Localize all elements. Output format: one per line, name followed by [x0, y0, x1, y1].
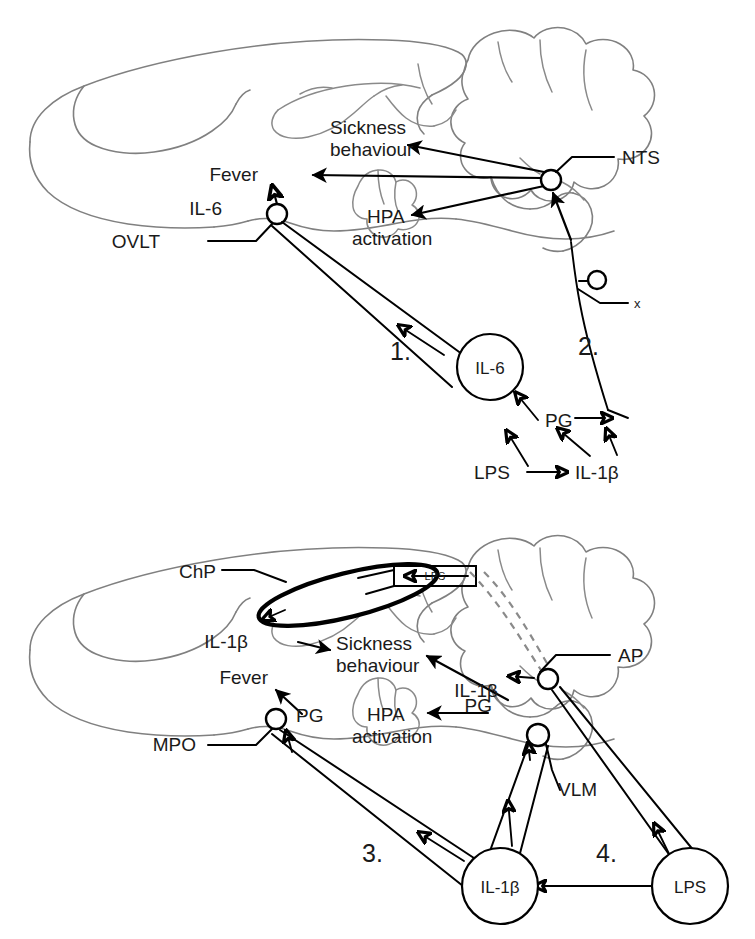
label-fever-top: Fever	[209, 164, 258, 185]
csf-dashed-2	[484, 572, 551, 670]
label-hpa-bottom: HPA	[367, 704, 405, 725]
arrow-nts-to-fever	[313, 175, 542, 178]
node-ovlt	[267, 204, 287, 224]
leader-chp	[222, 570, 286, 582]
csf-dashed-1	[470, 572, 541, 670]
label-vlm: VLM	[558, 779, 597, 800]
label-behaviour-bottom: behaviour	[336, 655, 420, 676]
label-hpa-top: HPA	[367, 206, 405, 227]
leader-vagus-x	[578, 289, 628, 303]
label-pg-mpo: PG	[296, 705, 323, 726]
label-il6-ovlt: IL-6	[189, 198, 222, 219]
leader-nts	[556, 157, 614, 172]
arrow-nts-to-sickness	[408, 145, 544, 172]
label-pathway-4: 4.	[596, 839, 617, 867]
arrow-pg-into-vlm	[528, 742, 530, 760]
label-sickness-bottom: Sickness	[336, 633, 412, 654]
label-ap: AP	[618, 645, 643, 666]
label-lps-box: LPS	[425, 570, 446, 582]
label-chp: ChP	[179, 561, 216, 582]
node-vagal-ganglion	[588, 271, 606, 289]
arrow-ap-il1b	[508, 676, 534, 678]
arrow-il1b-to-pg	[557, 428, 590, 456]
label-il1b-chp: IL-1β	[204, 631, 248, 652]
label-ovlt: OVLT	[112, 231, 161, 252]
tube-4-left	[552, 690, 673, 860]
arrow-pg-to-il6	[515, 392, 538, 420]
diagram-svg: Sickness behaviour Fever IL-6 OVLT HPA a…	[0, 0, 755, 939]
arrow-lps-to-pg	[506, 430, 528, 466]
label-il1b-top: IL-1β	[575, 462, 619, 483]
label-pathway-1: 1.	[390, 337, 411, 365]
labels-top: Sickness behaviour Fever IL-6 OVLT HPA a…	[112, 117, 660, 483]
node-vlm	[527, 724, 549, 746]
label-fever-bottom: Fever	[219, 667, 268, 688]
label-circle-il1b: IL-1β	[480, 878, 519, 897]
label-pathway-2: 2.	[578, 332, 599, 360]
label-behaviour-top: behaviour	[330, 139, 414, 160]
label-pg-top: PG	[545, 410, 572, 431]
label-circle-il6: IL-6	[475, 359, 504, 378]
vagus-nerve-curve	[571, 242, 608, 410]
label-hpa-activation-top: activation	[352, 228, 432, 249]
arrow-vagus-to-nts	[553, 193, 571, 240]
label-lps-top: LPS	[474, 462, 510, 483]
node-mpo	[266, 709, 286, 729]
label-vagus-x: x	[634, 296, 641, 311]
arrow-il1b-to-vagus	[606, 428, 617, 455]
arrow-flow-3b	[508, 800, 512, 846]
label-pg-vlm: PG	[465, 695, 492, 716]
figure-canvas: Sickness behaviour Fever IL-6 OVLT HPA a…	[0, 0, 755, 939]
label-pathway-3: 3.	[362, 839, 383, 867]
label-sickness-top: Sickness	[330, 117, 406, 138]
arrow-nts-to-hpa	[412, 186, 544, 215]
node-nts	[541, 170, 561, 190]
tube-1-lower	[272, 226, 452, 387]
label-mpo: MPO	[153, 734, 196, 755]
label-circle-lps: LPS	[674, 878, 706, 897]
label-hpa-activation-bottom: activation	[352, 726, 432, 747]
label-nts: NTS	[622, 147, 660, 168]
vagus-terminal-branch	[608, 410, 628, 418]
